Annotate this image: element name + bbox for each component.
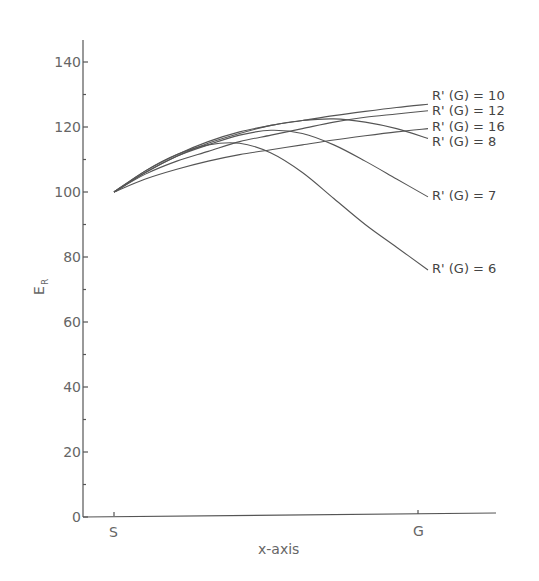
y-axis-label-sub: R <box>40 279 50 285</box>
y-tick-label: 140 <box>54 54 81 70</box>
curve-line <box>114 104 428 192</box>
y-tick-label: 80 <box>63 249 81 265</box>
y-tick-label: 120 <box>54 119 81 135</box>
x-axis-label: x-axis <box>258 541 299 557</box>
y-tick-label: 20 <box>63 444 81 460</box>
label-r6: R' (G) = 6 <box>432 261 496 276</box>
y-axis-label: E R <box>31 279 50 295</box>
label-r10: R' (G) = 10 <box>432 88 505 103</box>
label-r16: R' (G) = 16 <box>432 119 505 134</box>
y-tick-label: 60 <box>63 314 81 330</box>
y-axis-label-main: E <box>31 286 47 295</box>
curves <box>114 104 428 270</box>
curve-line <box>114 111 428 192</box>
chart-canvas: 020406080100120140 S G x-axis E R R' (G)… <box>0 0 539 581</box>
curve-line <box>114 129 428 192</box>
label-r12: R' (G) = 12 <box>432 103 505 118</box>
x-tick-label-g: G <box>413 523 424 539</box>
curve-line <box>114 143 428 270</box>
label-r7: R' (G) = 7 <box>432 188 496 203</box>
x-tick-label-s: S <box>109 524 118 540</box>
label-r8: R' (G) = 8 <box>432 134 496 149</box>
x-axis <box>83 513 496 517</box>
y-tick-label: 100 <box>54 184 81 200</box>
curve-line <box>114 130 428 197</box>
y-tick-label: 40 <box>63 379 81 395</box>
y-tick-label: 0 <box>72 509 81 525</box>
